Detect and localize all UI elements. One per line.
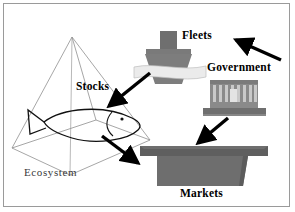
government-building-icon	[203, 80, 266, 116]
label-stocks: Stocks	[76, 81, 109, 93]
label-government: Government	[207, 62, 271, 74]
fish-outline-icon	[28, 109, 140, 141]
label-ecosystem: Ecosystem	[24, 167, 77, 178]
arrow-fleets-to-stocks	[109, 73, 150, 106]
ecosystem-pyramid-icon	[12, 37, 150, 175]
market-stall-icon	[140, 146, 268, 186]
diagram-canvas: Fleets Government Stocks Markets Ecosyst…	[0, 0, 295, 212]
diagram-artwork	[0, 0, 295, 212]
arrow-government-to-markets	[198, 118, 228, 143]
label-markets: Markets	[180, 188, 223, 200]
label-fleets: Fleets	[182, 30, 212, 42]
arrow-government-to-fleets	[236, 40, 281, 60]
